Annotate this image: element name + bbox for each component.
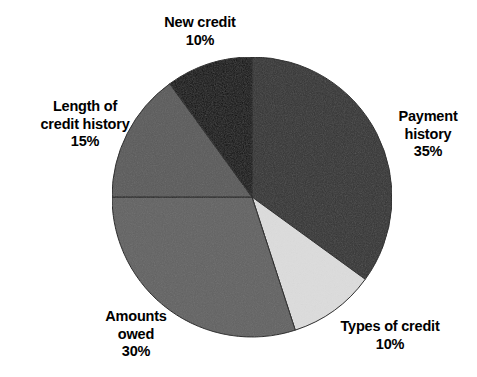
pie-slice-group — [112, 57, 392, 337]
pie-label-amounts-owed: Amounts owed 30% — [80, 308, 192, 361]
pie-chart-figure: Payment history 35% Types of credit 10% … — [0, 0, 477, 377]
pie-label-length-of-credit-history: Length of credit history 15% — [18, 98, 152, 151]
pie-label-types-of-credit: Types of credit 10% — [320, 318, 460, 353]
pie-label-types-of-credit-value: 10% — [320, 336, 460, 354]
pie-label-length-of-credit-history-line1: Length of — [18, 98, 152, 116]
pie-label-amounts-owed-line2: owed — [80, 326, 192, 344]
pie-label-length-of-credit-history-value: 15% — [18, 133, 152, 151]
pie-label-new-credit-value: 10% — [142, 32, 258, 50]
pie-label-new-credit: New credit 10% — [142, 14, 258, 49]
pie-label-types-of-credit-line1: Types of credit — [320, 318, 460, 336]
pie-label-length-of-credit-history-line2: credit history — [18, 116, 152, 134]
pie-label-payment-history-line1: Payment — [382, 108, 474, 126]
pie-label-payment-history: Payment history 35% — [382, 108, 474, 161]
pie-label-payment-history-value: 35% — [382, 143, 474, 161]
pie-label-amounts-owed-value: 30% — [80, 343, 192, 361]
pie-label-new-credit-line1: New credit — [142, 14, 258, 32]
pie-label-payment-history-line2: history — [382, 126, 474, 144]
pie-label-amounts-owed-line1: Amounts — [80, 308, 192, 326]
